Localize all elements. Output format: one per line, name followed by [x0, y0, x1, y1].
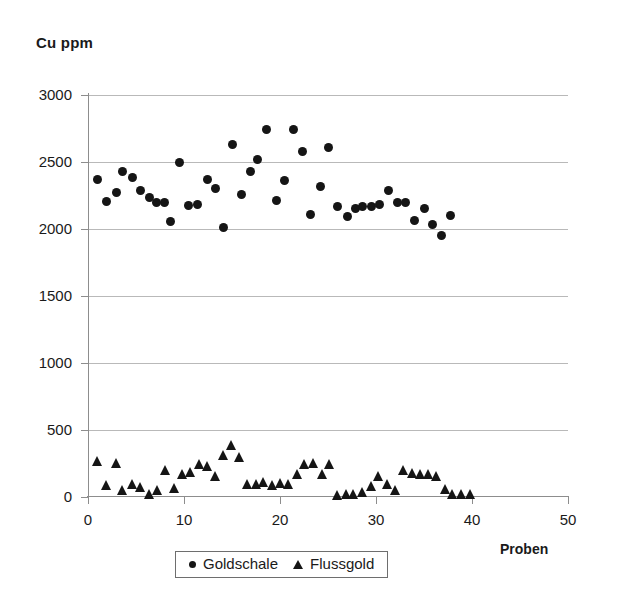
data-point-goldschale	[289, 125, 298, 134]
data-point-goldschale	[93, 175, 102, 184]
data-point-goldschale	[246, 167, 255, 176]
plot-area	[88, 95, 568, 497]
data-point-goldschale	[160, 198, 169, 207]
data-point-flussgold	[431, 471, 441, 481]
data-point-goldschale	[211, 184, 220, 193]
data-point-goldschale	[358, 202, 367, 211]
x-axis-tick	[568, 496, 569, 504]
data-point-flussgold	[160, 465, 170, 475]
data-point-flussgold	[152, 485, 162, 495]
x-axis-tick-label: 30	[354, 512, 398, 527]
data-point-flussgold	[390, 485, 400, 495]
data-point-flussgold	[283, 479, 293, 489]
data-point-flussgold	[92, 456, 102, 466]
data-point-goldschale	[272, 196, 281, 205]
data-point-goldschale	[203, 175, 212, 184]
legend-label-flussgold: Flussgold	[310, 556, 374, 572]
data-point-goldschale	[184, 201, 193, 210]
data-point-goldschale	[280, 176, 289, 185]
data-point-goldschale	[118, 167, 127, 176]
data-point-flussgold	[366, 481, 376, 491]
x-axis-tick-label: 0	[66, 512, 110, 527]
data-point-goldschale	[228, 140, 237, 149]
data-point-flussgold	[308, 458, 318, 468]
x-axis-title: Proben	[500, 541, 548, 557]
data-point-goldschale	[112, 188, 121, 197]
data-point-goldschale	[136, 186, 145, 195]
triangle-marker-icon	[293, 560, 303, 569]
x-axis-tick	[88, 496, 89, 504]
data-point-goldschale	[375, 200, 384, 209]
data-point-goldschale	[193, 200, 202, 209]
data-point-goldschale	[253, 155, 262, 164]
data-point-goldschale	[446, 211, 455, 220]
data-point-goldschale	[262, 125, 271, 134]
legend-label-goldschale: Goldschale	[203, 556, 278, 572]
circle-marker-icon	[189, 561, 196, 568]
x-axis-tick	[184, 496, 185, 504]
data-point-flussgold	[210, 471, 220, 481]
data-point-goldschale	[343, 212, 352, 221]
scatter-chart: Cu ppm 050010001500200025003000 01020304…	[0, 0, 621, 612]
chart-title: Cu ppm	[36, 34, 93, 51]
data-point-goldschale	[324, 143, 333, 152]
legend-item-flussgold: Flussgold	[293, 556, 374, 572]
data-point-goldschale	[237, 190, 246, 199]
x-axis-tick-label: 10	[162, 512, 206, 527]
data-point-goldschale	[410, 216, 419, 225]
data-point-goldschale	[175, 158, 184, 167]
data-point-goldschale	[428, 220, 437, 229]
data-point-flussgold	[234, 452, 244, 462]
data-point-goldschale	[152, 198, 161, 207]
data-point-goldschale	[393, 198, 402, 207]
data-point-goldschale	[102, 197, 111, 206]
x-axis-tick-label: 50	[546, 512, 590, 527]
data-point-goldschale	[401, 198, 410, 207]
data-point-flussgold	[101, 480, 111, 490]
data-point-goldschale	[367, 202, 376, 211]
y-axis-tick-label: 500	[12, 422, 72, 437]
x-axis-tick	[376, 496, 377, 504]
data-point-goldschale	[219, 223, 228, 232]
data-point-goldschale	[420, 204, 429, 213]
data-point-goldschale	[384, 186, 393, 195]
y-axis-tick-label: 3000	[12, 87, 72, 102]
data-point-flussgold	[226, 440, 236, 450]
chart-legend: Goldschale Flussgold	[175, 551, 388, 578]
data-point-flussgold	[465, 489, 475, 499]
legend-item-goldschale: Goldschale	[189, 556, 278, 572]
x-axis-tick-label: 20	[258, 512, 302, 527]
y-axis-tick-label: 2000	[12, 221, 72, 236]
y-axis-tick-label: 2500	[12, 154, 72, 169]
y-axis-tick-label: 1500	[12, 288, 72, 303]
data-point-flussgold	[324, 459, 334, 469]
data-point-flussgold	[317, 469, 327, 479]
y-axis-tick-label: 1000	[12, 355, 72, 370]
data-point-goldschale	[437, 231, 446, 240]
data-point-goldschale	[306, 210, 315, 219]
data-point-goldschale	[316, 182, 325, 191]
data-point-flussgold	[117, 485, 127, 495]
data-point-goldschale	[166, 217, 175, 226]
data-point-flussgold	[292, 469, 302, 479]
data-point-flussgold	[218, 450, 228, 460]
data-point-goldschale	[298, 147, 307, 156]
x-axis-tick	[280, 496, 281, 504]
data-point-flussgold	[169, 483, 179, 493]
data-point-goldschale	[333, 202, 342, 211]
data-point-flussgold	[111, 458, 121, 468]
data-point-goldschale	[128, 173, 137, 182]
y-axis-tick-label: 0	[12, 489, 72, 504]
x-axis-tick-label: 40	[450, 512, 494, 527]
